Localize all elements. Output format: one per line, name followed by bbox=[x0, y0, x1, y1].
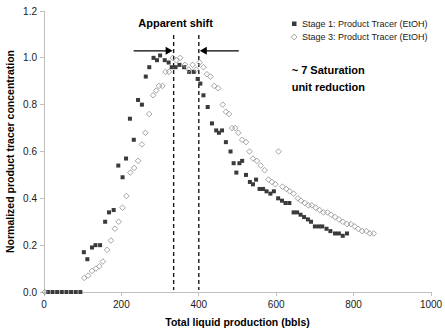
x-tick-label: 600 bbox=[268, 299, 285, 310]
data-point bbox=[116, 219, 122, 225]
data-point bbox=[226, 111, 232, 117]
shift-arrow-right-head bbox=[200, 47, 207, 55]
data-point bbox=[150, 93, 156, 99]
legend-label-2: Stage 3: Product Tracer (EtOH) bbox=[302, 32, 428, 42]
data-point bbox=[268, 192, 272, 196]
annotation-saturation-line1: ~ 7 Saturation bbox=[292, 64, 365, 76]
data-point bbox=[272, 189, 276, 193]
data-point bbox=[69, 290, 73, 294]
data-point bbox=[341, 234, 345, 238]
data-point bbox=[146, 111, 152, 117]
data-point bbox=[85, 257, 89, 261]
data-point bbox=[100, 259, 106, 265]
data-point bbox=[328, 229, 332, 233]
data-point bbox=[292, 210, 296, 214]
legend-marker-stage1 bbox=[292, 22, 297, 27]
data-point bbox=[317, 224, 321, 228]
data-point bbox=[262, 167, 268, 173]
x-tick-label: 400 bbox=[190, 299, 207, 310]
y-tick-label: 1.0 bbox=[23, 52, 37, 63]
data-point bbox=[265, 189, 269, 193]
data-point bbox=[163, 69, 169, 75]
data-point bbox=[155, 58, 159, 62]
data-point bbox=[345, 231, 349, 235]
data-point bbox=[280, 199, 284, 203]
data-point bbox=[140, 103, 144, 107]
x-tick-label: 1000 bbox=[420, 299, 443, 310]
data-point bbox=[112, 208, 116, 212]
data-point bbox=[120, 205, 126, 211]
data-point bbox=[235, 130, 241, 136]
data-point bbox=[116, 164, 120, 168]
data-point bbox=[147, 65, 151, 69]
data-point bbox=[234, 171, 238, 175]
annotation-apparent-shift: Apparent shift bbox=[138, 17, 213, 29]
data-point bbox=[337, 231, 341, 235]
data-point bbox=[64, 290, 68, 294]
data-point bbox=[333, 231, 337, 235]
data-point bbox=[229, 150, 233, 154]
data-point bbox=[103, 220, 107, 224]
data-point bbox=[313, 224, 317, 228]
data-point bbox=[51, 290, 55, 294]
x-tick-label: 200 bbox=[113, 299, 130, 310]
data-point bbox=[232, 161, 236, 165]
data-point bbox=[139, 142, 145, 148]
data-point bbox=[224, 140, 228, 144]
data-point bbox=[371, 231, 377, 237]
y-tick-label: 0.8 bbox=[23, 99, 37, 110]
data-point bbox=[163, 58, 167, 62]
data-point bbox=[97, 263, 103, 269]
data-point bbox=[158, 53, 162, 57]
y-tick-label: 0.6 bbox=[23, 146, 37, 157]
data-point bbox=[325, 227, 329, 231]
data-point bbox=[201, 64, 207, 70]
data-point bbox=[367, 231, 373, 237]
scatter-chart: 0.00.20.40.60.81.01.202004006008001000To… bbox=[0, 0, 445, 334]
data-point bbox=[166, 69, 172, 75]
chart-canvas: 0.00.20.40.60.81.01.202004006008001000To… bbox=[0, 0, 445, 334]
y-axis-title: Normalized product tracer concentration bbox=[4, 50, 16, 253]
shift-arrow-left-head bbox=[166, 47, 173, 55]
data-point bbox=[261, 187, 265, 191]
data-point bbox=[143, 130, 149, 136]
data-point bbox=[167, 61, 171, 65]
data-point bbox=[177, 63, 181, 67]
data-point bbox=[156, 83, 162, 89]
data-point bbox=[144, 75, 148, 79]
annotation-saturation-line2: unit reduction bbox=[292, 81, 366, 93]
data-point bbox=[74, 290, 78, 294]
legend-marker-stage3 bbox=[291, 34, 297, 40]
data-point bbox=[208, 74, 214, 80]
data-point bbox=[251, 182, 255, 186]
data-point bbox=[104, 247, 110, 253]
data-point bbox=[220, 102, 226, 108]
data-point bbox=[93, 243, 97, 247]
data-point bbox=[258, 187, 262, 191]
x-tick-label: 800 bbox=[345, 299, 362, 310]
data-point bbox=[78, 290, 82, 294]
data-point bbox=[121, 175, 125, 179]
data-point bbox=[174, 65, 178, 69]
data-point bbox=[131, 165, 137, 171]
data-point bbox=[170, 55, 176, 61]
data-point bbox=[124, 157, 128, 161]
data-point bbox=[82, 250, 86, 254]
data-point bbox=[55, 290, 59, 294]
data-point bbox=[306, 203, 312, 209]
data-point bbox=[254, 178, 258, 182]
data-point bbox=[210, 121, 214, 125]
y-tick-label: 0.0 bbox=[23, 287, 37, 298]
data-point bbox=[258, 163, 264, 169]
data-point bbox=[201, 93, 205, 97]
data-point bbox=[247, 149, 253, 155]
data-point bbox=[136, 98, 140, 102]
data-point bbox=[223, 109, 229, 115]
data-point bbox=[128, 170, 134, 176]
data-point bbox=[276, 149, 282, 155]
data-point bbox=[287, 201, 291, 205]
data-point bbox=[269, 179, 275, 185]
x-tick-label: 0 bbox=[41, 299, 47, 310]
x-axis-title: Total liquid production (bbls) bbox=[165, 316, 309, 328]
data-point bbox=[204, 71, 210, 77]
